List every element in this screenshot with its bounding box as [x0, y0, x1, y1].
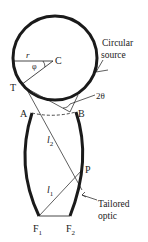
two-theta-arc	[63, 104, 70, 108]
focus-f2-label: F2	[66, 223, 76, 237]
center-label: C	[55, 55, 62, 66]
focus-f1-label: F1	[33, 223, 43, 237]
center-to-tangent-line	[21, 61, 53, 85]
point-a-label: A	[20, 108, 28, 119]
optics-diagram: r C φ T 2θ A B l2 P l1 F1 F2 Circular so…	[0, 0, 148, 242]
optic-right-wall	[70, 112, 83, 216]
optic-label-line1: Tailored	[98, 199, 130, 209]
length-l1-label: l1	[47, 184, 54, 198]
optic-left-wall	[25, 113, 39, 216]
phi-arc	[43, 61, 45, 67]
two-theta-label: 2θ	[96, 91, 105, 101]
point-p-label: P	[85, 164, 91, 175]
tangent-point-label: T	[10, 82, 16, 93]
source-label-line2: source	[101, 50, 126, 60]
phi-label: φ	[32, 62, 37, 71]
optic-label-line2: optic	[98, 211, 117, 221]
source-label-line1: Circular	[102, 38, 134, 48]
radius-label: r	[26, 50, 30, 60]
point-b-label: B	[78, 108, 85, 119]
aperture-dashed-line	[32, 112, 76, 115]
ray-f1-to-p	[39, 170, 82, 216]
